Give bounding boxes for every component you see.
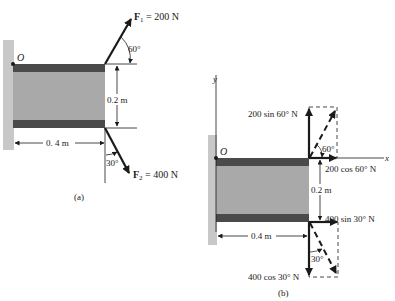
y-axis-label: y: [212, 74, 217, 84]
height-dim-label-b: 0.2 m: [311, 185, 332, 195]
top-strip-b: [216, 158, 309, 166]
f1-vertical-label: 200 sin 60° N: [248, 109, 298, 119]
height-dim-label-a: 0.2 m: [107, 95, 128, 105]
force-f1-label: F1 = 200 N: [134, 11, 179, 24]
angle-arc-30-b: [310, 249, 322, 252]
origin-point-a: [11, 62, 15, 66]
width-dim-label-b: 0.4 m: [251, 231, 272, 241]
caption-a: (a): [74, 192, 84, 202]
angle-arc-30-a: [106, 152, 117, 155]
caption-b: (b): [278, 288, 289, 298]
f2-vertical-label: 400 cos 30° N: [248, 272, 300, 282]
origin-point-b: [214, 156, 218, 160]
top-strip-a: [13, 64, 105, 72]
figure-a: O 60° F1 = 200 N 0.2 m 0. 4 m 30° F2 = 4…: [3, 11, 179, 202]
f2-angle-label-b: 30°: [311, 254, 324, 264]
diagram-canvas: O 60° F1 = 200 N 0.2 m 0. 4 m 30° F2 = 4…: [0, 0, 395, 301]
f1-horizontal-label: 200 cos 60° N: [325, 164, 377, 174]
f1-angle-label-b: 60°: [322, 144, 335, 154]
x-axis-label: x: [384, 153, 389, 163]
figure-b: y x O 60° 200 sin 60° N 200 cos 60° N 0.…: [208, 74, 389, 298]
f2-resultant-dashed: [310, 223, 336, 273]
force-f2-label: F2 = 400 N: [133, 169, 178, 182]
origin-label-b: O: [220, 146, 227, 157]
wall-a: [3, 40, 14, 150]
force-f1-arrow: [105, 19, 131, 64]
f2-horizontal-label: 400 sin 30° N: [325, 214, 375, 224]
plate-body-b: [216, 166, 309, 214]
angle-label-30-a: 30°: [106, 158, 119, 168]
plate-body-a: [13, 72, 105, 120]
bottom-strip-a: [13, 120, 105, 128]
origin-label-a: O: [17, 52, 24, 63]
width-dim-label-a: 0. 4 m: [46, 138, 69, 148]
angle-label-60-a: 60°: [128, 44, 141, 54]
bottom-strip-b: [216, 214, 309, 222]
